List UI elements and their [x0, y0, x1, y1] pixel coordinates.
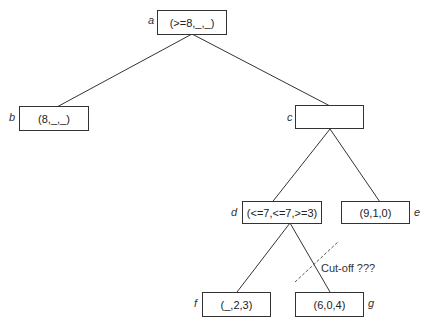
node-label-g: g	[368, 297, 374, 309]
node-c	[295, 105, 364, 129]
node-d: (<=7,<=7,>=3)	[242, 201, 322, 224]
node-label-a: a	[148, 14, 154, 26]
edge-a-c	[192, 34, 330, 106]
node-label-f: f	[194, 297, 197, 309]
node-label-e: e	[414, 206, 420, 218]
node-f-value: (_,2,3)	[221, 299, 253, 311]
cutoff-annotation: Cut-off ???	[321, 262, 375, 274]
node-g-value: (6,0,4)	[314, 299, 346, 311]
node-g: (6,0,4)	[295, 292, 364, 317]
node-label-b: b	[9, 111, 15, 123]
node-a-value: (>=8,_,_)	[170, 17, 215, 29]
node-e: (9,1,0)	[341, 201, 410, 224]
node-e-value: (9,1,0)	[360, 207, 392, 219]
node-b: (8,_,_)	[19, 106, 89, 131]
tree-edges	[0, 0, 426, 331]
node-f: (_,2,3)	[202, 292, 271, 317]
node-a: (>=8,_,_)	[157, 10, 227, 35]
node-label-c: c	[287, 111, 293, 123]
edge-a-b	[55, 34, 192, 108]
node-label-d: d	[231, 206, 237, 218]
edge-c-d	[270, 129, 330, 205]
edge-d-f	[237, 223, 290, 292]
node-b-value: (8,_,_)	[38, 113, 70, 125]
node-d-value: (<=7,<=7,>=3)	[247, 207, 317, 219]
edge-c-e	[330, 129, 382, 205]
